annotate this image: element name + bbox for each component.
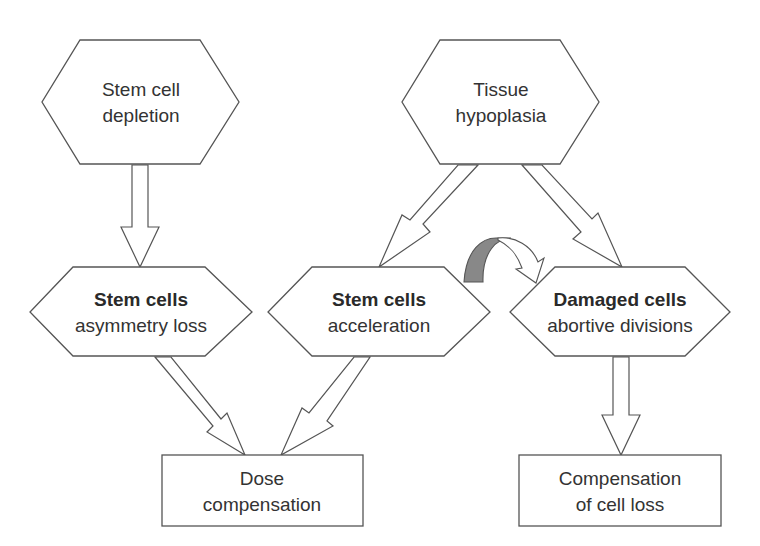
node-label: hypoplasia xyxy=(456,105,547,126)
arrow-hypoplasia-to-acceleration xyxy=(379,165,478,267)
node-stem-cells-asymmetry: Stem cells asymmetry loss xyxy=(30,267,252,356)
node-tissue-hypoplasia: Tissue hypoplasia xyxy=(402,40,599,164)
node-label: Tissue xyxy=(473,79,528,100)
arrow-depletion-to-asymmetry xyxy=(121,165,159,267)
node-title: Stem cells xyxy=(94,289,188,310)
node-label: depletion xyxy=(102,105,179,126)
node-stem-cell-depletion: Stem cell depletion xyxy=(42,40,239,164)
node-label: compensation xyxy=(203,494,321,515)
node-damaged-cells: Damaged cells abortive divisions xyxy=(510,267,730,356)
node-subtitle: acceleration xyxy=(328,315,430,336)
node-dose-compensation: Dose compensation xyxy=(162,455,363,526)
node-stem-cells-acceleration: Stem cells acceleration xyxy=(268,267,490,356)
node-title: Stem cells xyxy=(332,289,426,310)
diagram-canvas: Stem cell depletion Tissue hypoplasia St… xyxy=(0,0,760,546)
node-label: of cell loss xyxy=(576,494,665,515)
arrow-damaged-to-cellloss xyxy=(602,357,640,455)
node-label: Compensation xyxy=(559,468,682,489)
arrow-hypoplasia-to-damaged xyxy=(522,165,622,267)
arrow-asymmetry-to-dose xyxy=(155,357,245,455)
node-compensation-cell-loss: Compensation of cell loss xyxy=(519,455,721,526)
node-subtitle: abortive divisions xyxy=(547,315,693,336)
node-label: Dose xyxy=(240,468,284,489)
node-title: Damaged cells xyxy=(553,289,686,310)
node-subtitle: asymmetry loss xyxy=(75,315,207,336)
arrow-acceleration-to-dose xyxy=(281,357,370,455)
curved-arrow-acceleration-to-damaged xyxy=(464,238,544,283)
node-label: Stem cell xyxy=(102,79,180,100)
